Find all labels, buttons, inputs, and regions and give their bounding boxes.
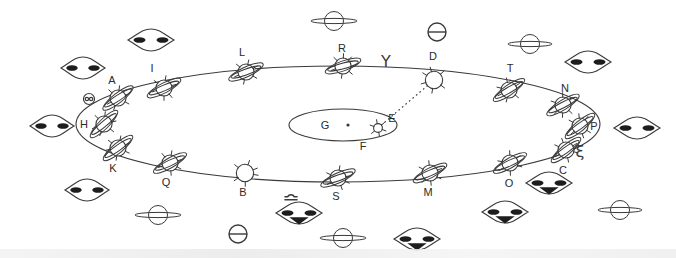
large-ellipse-orbit — [76, 66, 600, 182]
body-spike — [349, 71, 352, 74]
saucer-shape — [614, 117, 660, 139]
saucer-shape — [128, 29, 174, 51]
saucer-shape — [394, 228, 440, 251]
saucer-shape — [61, 57, 105, 79]
double-dot-circle-symbol — [84, 94, 95, 105]
saucer-port-left — [400, 236, 412, 242]
body-spike — [253, 76, 257, 78]
body-label-P: P — [590, 121, 597, 132]
orbit-body-E[interactable] — [370, 120, 386, 137]
body-spike — [95, 116, 98, 119]
saucer-port-left — [488, 209, 500, 215]
body-spike — [379, 132, 380, 136]
body-spike — [116, 156, 117, 161]
saucer-port-right — [594, 59, 606, 65]
orbit-body-A[interactable] — [100, 83, 136, 114]
saucer-port-left — [532, 180, 544, 186]
saucer-port-right — [423, 236, 435, 242]
body-spike — [497, 87, 501, 88]
body-spike — [253, 174, 258, 175]
body-spike — [236, 64, 240, 67]
orbit-body-B[interactable] — [234, 160, 258, 186]
body-spike — [432, 88, 433, 93]
saucer-port-right — [511, 209, 523, 215]
body-spike — [437, 169, 441, 171]
saucer-shape — [65, 179, 109, 201]
body-spike — [341, 185, 343, 189]
body-spike — [341, 74, 342, 79]
orbit-body-H[interactable] — [87, 107, 121, 141]
body-spike — [441, 85, 445, 88]
saucer-dome — [325, 12, 344, 31]
body-disc — [236, 164, 253, 181]
body-spike — [244, 80, 245, 84]
saucer-shape — [508, 35, 552, 54]
saucer-shape — [482, 201, 528, 224]
orbit-body-S[interactable] — [319, 166, 357, 191]
orbit-body-Q[interactable] — [151, 149, 189, 176]
body-label-I: I — [150, 63, 153, 74]
body-spike — [169, 94, 172, 97]
body-spike — [419, 167, 423, 169]
body-spike — [423, 73, 427, 76]
body-label-S: S — [332, 191, 339, 202]
earth-symbol-bottom — [229, 225, 247, 243]
orbit-body-O[interactable] — [491, 149, 529, 176]
saucer-port-left — [70, 187, 81, 193]
body-spike — [108, 140, 112, 143]
body-label-H: H — [80, 119, 88, 130]
orbit-body-D[interactable] — [421, 67, 444, 93]
body-label-E: E — [388, 113, 395, 124]
saucer-port-right — [92, 187, 103, 193]
body-label-D: D — [429, 51, 437, 62]
body-label-O: O — [505, 178, 514, 189]
body-spike — [381, 123, 384, 126]
body-spike — [370, 125, 374, 126]
saucer-port-left — [134, 37, 146, 43]
body-spike — [569, 110, 572, 113]
xi-symbol: ξ — [576, 144, 585, 160]
body-spike — [327, 173, 331, 175]
saucer-port-left — [571, 59, 583, 65]
orbit-body-N[interactable] — [544, 91, 581, 119]
body-spike — [506, 98, 507, 102]
saucer-dome — [611, 201, 630, 220]
astro-symbol-group — [84, 23, 447, 243]
body-label-M: M — [423, 187, 432, 198]
orbit-body-I[interactable] — [145, 75, 183, 101]
body-spike — [235, 75, 239, 77]
saucer-shape — [276, 202, 322, 225]
saucer-shape — [30, 115, 74, 137]
saucer-shape — [320, 229, 366, 248]
libra-symbol — [285, 195, 297, 200]
body-spike — [515, 95, 519, 98]
diagram-vector-art — [0, 0, 676, 258]
saucer-port-left — [66, 65, 77, 71]
saucer-port-right — [305, 210, 317, 216]
body-spike — [253, 168, 258, 170]
body-spike — [582, 133, 583, 137]
bottom-band — [0, 249, 676, 258]
saucer-shape — [565, 51, 611, 73]
body-label-C: C — [559, 165, 567, 176]
orbit-body-M[interactable] — [411, 160, 449, 186]
orbit-body-L[interactable] — [227, 60, 265, 85]
saucer-port-left — [35, 123, 46, 129]
body-spike — [235, 165, 239, 168]
saucer-shape — [598, 201, 642, 220]
body-spike — [248, 60, 249, 64]
body-spike — [119, 86, 120, 91]
body-spike — [110, 129, 114, 132]
dotted-sight-line — [378, 80, 434, 128]
body-spike — [551, 101, 555, 102]
body-spike — [430, 67, 431, 72]
center-point-g — [346, 123, 349, 126]
saucer-shape — [311, 12, 357, 31]
body-spike — [555, 145, 559, 147]
body-spike — [372, 131, 375, 134]
body-spike — [421, 82, 426, 83]
body-spike — [248, 160, 250, 165]
diagram-canvas: AILRDTNPCOMSBQKHEGFΥξ — [0, 0, 676, 258]
body-spike — [234, 178, 238, 181]
body-spike — [339, 166, 340, 171]
